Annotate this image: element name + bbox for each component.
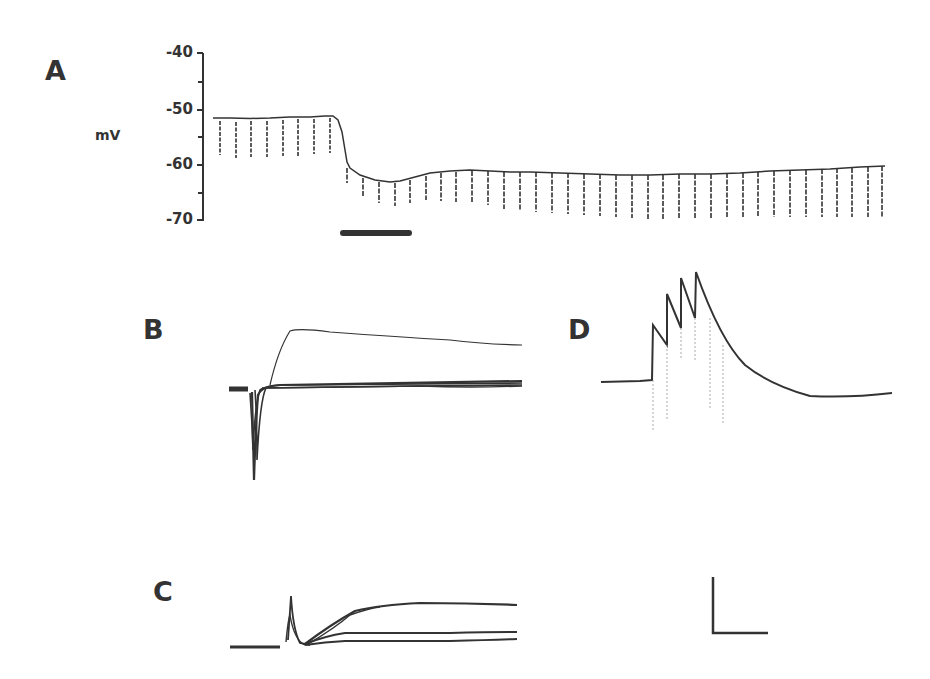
scale-bar bbox=[713, 577, 768, 633]
trace-d bbox=[601, 272, 892, 397]
pulses-a-before bbox=[220, 118, 330, 158]
trace-b bbox=[229, 330, 522, 480]
figure-canvas bbox=[0, 0, 930, 679]
drug-application-bar bbox=[340, 230, 412, 236]
stimulus-artifacts-d bbox=[653, 318, 723, 432]
y-axis-a bbox=[197, 53, 203, 221]
trace-c bbox=[230, 596, 517, 647]
